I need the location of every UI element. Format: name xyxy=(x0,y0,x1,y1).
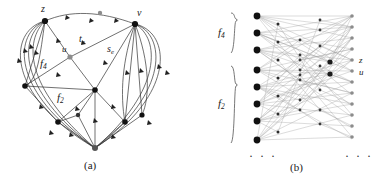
caption-panel-b: (b) xyxy=(290,162,303,173)
vertex-top-mid xyxy=(98,11,102,15)
vertex-left xyxy=(22,83,28,89)
label-z-panel-b: z xyxy=(359,56,363,65)
label-se-panel-a: se xyxy=(107,44,114,56)
label-z-panel-a: z xyxy=(41,4,45,14)
label-u-panel-a: u xyxy=(62,45,67,54)
left-node-1 xyxy=(254,13,261,20)
vertex-bottom xyxy=(92,145,98,151)
vertex-z xyxy=(42,18,48,24)
left-node-7 xyxy=(254,118,261,125)
vertex-center xyxy=(92,87,98,93)
label-v-panel-a: v xyxy=(137,8,141,18)
vertex-far-right xyxy=(139,112,144,117)
label-te-panel-a: te xyxy=(79,34,85,46)
ellipsis-left-panel-b: · · · xyxy=(249,150,277,162)
left-node-5 xyxy=(254,84,261,91)
vertex-v xyxy=(132,21,138,27)
left-node-2 xyxy=(254,30,261,37)
vertex-right-lower xyxy=(122,119,128,125)
ellipsis-right-panel-b: · · · xyxy=(345,150,373,162)
left-node-3 xyxy=(254,47,261,54)
caption-panel-a: (a) xyxy=(84,160,96,171)
vertex-inner xyxy=(76,113,80,117)
label-f4-panel-a: f4 xyxy=(40,58,47,71)
left-node-6 xyxy=(254,101,261,108)
left-node-4 xyxy=(254,67,261,74)
label-u-panel-b: u xyxy=(359,68,364,77)
left-node-8 xyxy=(254,137,261,144)
label-f4-panel-b: f4 xyxy=(218,27,225,40)
label-f2-panel-a: f2 xyxy=(57,92,64,105)
vertex-lower-left xyxy=(55,119,61,125)
vertex-u xyxy=(67,54,72,59)
label-f2-panel-b: f2 xyxy=(218,98,225,111)
